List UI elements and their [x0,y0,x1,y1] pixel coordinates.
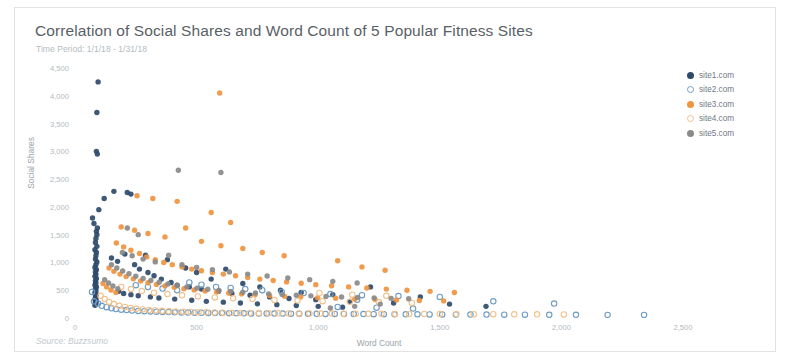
data-point [339,294,344,299]
x-axis-tick-label: 500 [190,323,203,332]
data-point [101,196,106,201]
data-point [129,253,134,258]
data-point [422,311,427,316]
data-point [121,244,126,249]
data-point [335,258,340,263]
data-point [354,280,359,285]
data-point [210,267,215,272]
data-point [119,224,124,229]
data-point [240,281,245,286]
data-point [371,295,376,300]
data-point [227,269,232,274]
data-point [195,294,200,299]
data-point [136,232,141,237]
legend-item-site2-com[interactable]: site2.com [687,83,771,98]
data-point [272,297,277,302]
y-axis-tick-label: 2,500 [50,175,69,184]
data-point [471,311,476,316]
data-point [417,298,422,303]
data-point [176,168,181,173]
data-point [111,301,116,306]
data-point [452,290,457,295]
data-point [255,301,260,306]
data-point [189,266,194,271]
data-point [94,110,99,115]
data-point [194,285,199,290]
data-point [153,259,158,264]
data-point [266,291,271,296]
data-point [238,310,243,315]
x-axis-tick-label: 0 [73,323,77,332]
data-point [194,265,199,270]
data-point [115,259,120,264]
legend-item-site4-com[interactable]: site4.com [687,112,771,127]
data-point [260,250,265,255]
legend-item-site1-com[interactable]: site1.com [687,68,771,83]
data-point [133,274,138,279]
x-axis-title: Word Count [75,338,683,348]
data-point [109,255,114,260]
data-point [114,265,119,270]
y-axis-tick-label: 1,500 [50,230,69,239]
data-point [316,304,321,309]
data-point [128,286,133,291]
x-axis-tick-label: 1,500 [430,323,449,332]
legend-label: site5.com [699,129,734,138]
data-point [150,196,155,201]
legend-swatch-icon [687,115,694,122]
legend-label: site1.com [699,71,734,80]
series-site3-com [100,90,457,303]
data-point [165,281,170,286]
data-point [245,271,250,276]
data-point [204,299,209,304]
data-point [253,290,258,295]
legend-item-site5-com[interactable]: site5.com [687,126,771,141]
data-point [162,234,167,239]
data-point [228,220,233,225]
data-point [264,273,269,278]
data-point [551,301,556,306]
data-point [212,295,217,300]
data-point [295,298,300,303]
data-point [384,286,389,291]
data-point [172,296,177,301]
data-point [394,297,399,302]
data-point [221,271,226,276]
data-point [133,283,138,288]
data-point [199,239,204,244]
data-point [218,170,223,175]
data-point [114,240,119,245]
data-point [427,289,432,294]
data-point [285,275,290,280]
data-point [139,288,144,293]
data-point [217,90,222,95]
scatter-plot-svg [75,68,683,318]
x-axis-tick-label: 2,000 [552,323,571,332]
data-point [128,292,133,297]
data-point [406,296,411,301]
data-point [447,301,452,306]
data-point [388,296,393,301]
data-point [308,293,313,298]
data-point [330,279,335,284]
data-point [140,256,145,261]
data-point [106,280,111,285]
data-point [125,225,130,230]
data-point [170,262,175,267]
data-point [491,299,496,304]
y-axis-tick-label: 4,500 [50,64,69,73]
data-point [174,283,179,288]
data-point [605,312,610,317]
data-point [126,271,131,276]
data-point [205,287,210,292]
data-point [96,207,101,212]
x-axis-tick-label: 1,000 [309,323,328,332]
legend-label: site3.com [699,100,734,109]
data-point [184,284,189,289]
data-point [137,251,142,256]
y-axis-tick-label: 3,500 [50,119,69,128]
data-point [128,191,133,196]
legend-item-site3-com[interactable]: site3.com [687,97,771,112]
y-axis-ticks: 05001,0001,5002,0002,5003,0003,5004,0004… [27,68,69,318]
data-point [199,268,204,273]
